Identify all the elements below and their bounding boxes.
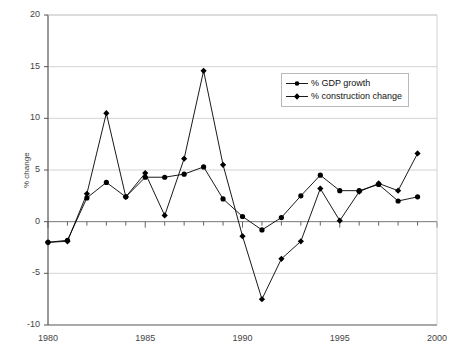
y-axis-tick-label: 15 (14, 61, 40, 71)
y-axis-tick-label: 5 (14, 164, 40, 174)
plot-area (0, 0, 463, 361)
x-axis-tick-label: 1980 (28, 333, 68, 343)
x-axis-ticks (48, 222, 437, 228)
chart-legend: % GDP growth % construction change (281, 73, 409, 107)
legend-item-gdp-growth: % GDP growth (286, 77, 402, 90)
y-axis-tick-label: -5 (14, 267, 40, 277)
legend-item-construction-change: % construction change (286, 90, 402, 103)
x-axis-tick-label: 1990 (223, 333, 263, 343)
y-axis-tick-label: 0 (14, 216, 40, 226)
diamond-marker-icon (286, 91, 308, 102)
y-axis-tick-label: 20 (14, 9, 40, 19)
y-axis-tick-label: -10 (14, 319, 40, 329)
y-axis-tick-label: 10 (14, 112, 40, 122)
x-axis-tick-label: 1995 (320, 333, 360, 343)
legend-label-gdp-growth: % GDP growth (311, 77, 370, 90)
legend-label-construction-change: % construction change (311, 90, 402, 103)
x-axis-tick-label: 1985 (125, 333, 165, 343)
x-axis-tick-label: 2000 (417, 333, 457, 343)
circle-marker-icon (286, 78, 308, 89)
line-chart: % change -10-505101520 19801985199019952… (0, 0, 463, 361)
